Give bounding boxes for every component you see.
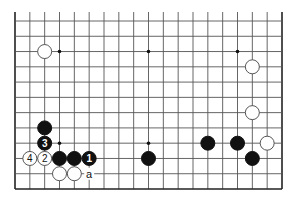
star-point bbox=[236, 50, 240, 54]
black-stone bbox=[201, 136, 215, 150]
white-stone bbox=[260, 136, 274, 150]
white-stone-circle bbox=[245, 106, 259, 120]
star-point bbox=[58, 50, 62, 54]
white-stone: 2 bbox=[38, 151, 52, 165]
white-stone bbox=[67, 167, 81, 181]
black-stone bbox=[142, 151, 156, 165]
black-stone-circle bbox=[38, 121, 52, 135]
star-point bbox=[58, 141, 62, 145]
white-stone bbox=[53, 167, 67, 181]
black-stone-circle bbox=[142, 151, 156, 165]
white-stone-circle bbox=[38, 45, 52, 59]
black-stone-circle bbox=[67, 151, 81, 165]
point-label: a bbox=[86, 168, 93, 180]
move-number: 1 bbox=[86, 153, 92, 164]
white-stone bbox=[245, 106, 259, 120]
white-stone bbox=[38, 45, 52, 59]
go-board: 3421 a bbox=[0, 0, 294, 203]
black-stone: 3 bbox=[38, 136, 52, 150]
star-point bbox=[147, 50, 151, 54]
white-stone: 4 bbox=[23, 151, 37, 165]
black-stone bbox=[53, 151, 67, 165]
black-stone: 1 bbox=[82, 151, 96, 165]
black-stone-circle bbox=[245, 151, 259, 165]
white-stone-circle bbox=[245, 60, 259, 74]
black-stone-circle bbox=[201, 136, 215, 150]
white-stone-circle bbox=[67, 167, 81, 181]
black-stone bbox=[67, 151, 81, 165]
black-stone bbox=[245, 151, 259, 165]
black-stone-circle bbox=[53, 151, 67, 165]
white-stone-circle bbox=[53, 167, 67, 181]
black-stone-circle bbox=[231, 136, 245, 150]
white-stone-circle bbox=[260, 136, 274, 150]
black-stone bbox=[38, 121, 52, 135]
board-labels: a bbox=[84, 168, 94, 180]
white-stone bbox=[245, 60, 259, 74]
star-point bbox=[147, 141, 151, 145]
move-number: 2 bbox=[42, 153, 48, 164]
move-number: 4 bbox=[27, 153, 33, 164]
black-stone bbox=[231, 136, 245, 150]
move-number: 3 bbox=[42, 138, 48, 149]
